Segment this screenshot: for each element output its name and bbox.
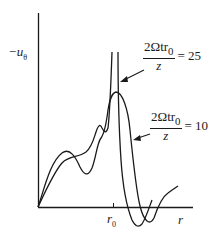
- annotation-10: 2Ωtr0 z = 10: [150, 110, 208, 143]
- curve-25: [38, 52, 112, 207]
- x-axis-label: r: [178, 212, 183, 228]
- annotation-25-numerator: 2Ωtr0: [143, 40, 175, 59]
- arrow-25-head: [120, 76, 128, 82]
- annotation-25: 2Ωtr0 z = 25: [143, 40, 201, 73]
- r0-tick-label: r0: [107, 211, 116, 229]
- annotation-10-denominator: z: [163, 129, 168, 143]
- annotation-25-value: = 25: [178, 48, 202, 64]
- annotation-10-numerator: 2Ωtr0: [150, 110, 182, 129]
- annotation-25-denominator: z: [156, 59, 161, 73]
- y-axis-label: −uθ: [8, 44, 27, 62]
- annotation-10-value: = 10: [185, 118, 209, 134]
- arrow-10-head: [133, 135, 141, 141]
